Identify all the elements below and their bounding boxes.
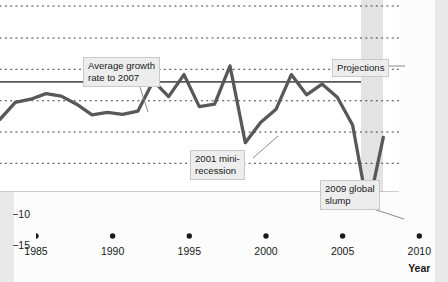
annotation-projections: Projections: [332, 59, 389, 77]
leader-line-mini-recession: [253, 136, 278, 158]
annotation-global-slump-line2: slump: [325, 195, 351, 206]
annotation-average-growth-line2: rate to 2007: [88, 72, 139, 83]
annotation-mini-recession: 2001 mini- recession: [190, 150, 245, 180]
chart-figure: Change in volume of international trade …: [0, 0, 448, 282]
leader-line-average-growth: [139, 84, 148, 112]
annotation-leader-lines: [0, 0, 448, 282]
annotation-global-slump: 2009 global slump: [320, 180, 380, 210]
annotation-average-growth-line1: Average growth: [88, 60, 155, 71]
annotation-mini-recession-line2: recession: [195, 165, 236, 176]
annotation-global-slump-line1: 2009 global: [325, 183, 375, 194]
annotation-average-growth: Average growth rate to 2007: [83, 57, 160, 87]
annotation-mini-recession-line1: 2001 mini-: [195, 153, 240, 164]
annotation-projections-line1: Projections: [337, 62, 384, 73]
